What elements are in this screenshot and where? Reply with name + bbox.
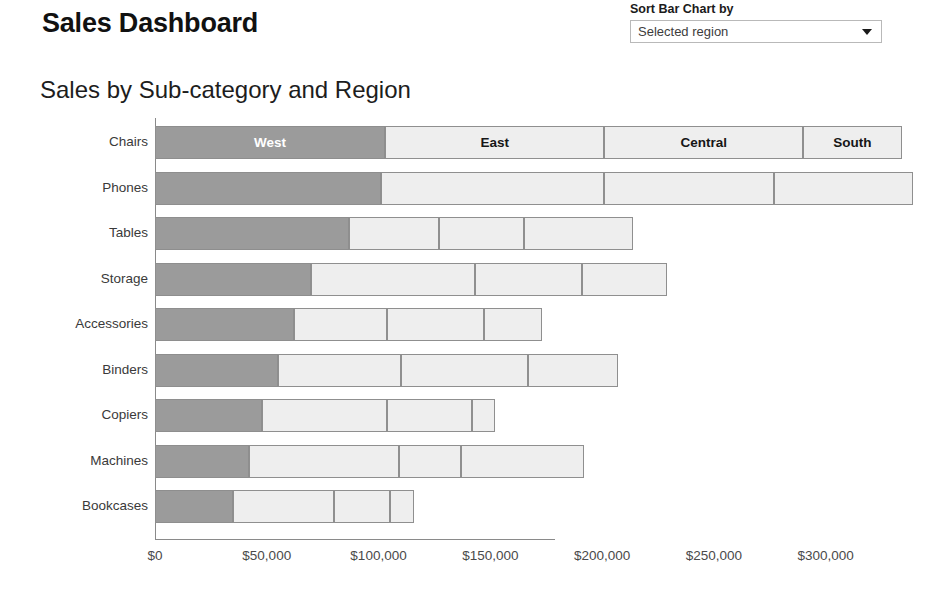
bar-row[interactable] <box>155 399 495 432</box>
bar-segment-south[interactable] <box>461 445 584 478</box>
bar-segment-west[interactable] <box>155 445 249 478</box>
y-axis-category-label: Chairs <box>18 134 148 149</box>
x-axis-tick-label: $200,000 <box>574 548 630 563</box>
x-axis-tick-label: $150,000 <box>462 548 518 563</box>
y-axis-category-label: Accessories <box>18 316 148 331</box>
bar-segment-label <box>525 218 633 249</box>
bar-segment-central[interactable] <box>604 172 774 205</box>
bar-segment-label <box>156 355 277 386</box>
bar-segment-west[interactable] <box>155 354 278 387</box>
bar-segment-west[interactable] <box>155 263 311 296</box>
bar-segment-label: West <box>156 127 384 158</box>
bar-segment-label <box>391 491 414 522</box>
sort-dropdown-value: Selected region <box>638 24 728 39</box>
bar-segment-east[interactable] <box>294 308 388 341</box>
bar-segment-central[interactable] <box>387 308 483 341</box>
bar-row[interactable] <box>155 445 584 478</box>
bar-segment-central[interactable] <box>439 217 524 250</box>
bar-segment-east[interactable] <box>349 217 438 250</box>
bar-segment-south[interactable] <box>528 354 617 387</box>
bar-segment-west[interactable] <box>155 172 381 205</box>
bar-segment-east[interactable] <box>311 263 474 296</box>
bar-segment-central[interactable] <box>475 263 582 296</box>
bar-segment-west[interactable] <box>155 490 233 523</box>
bar-segment-east[interactable] <box>381 172 605 205</box>
bar-segment-label <box>605 173 773 204</box>
bar-segment-south[interactable] <box>524 217 634 250</box>
bar-segment-east[interactable] <box>249 445 399 478</box>
bar-segment-central[interactable] <box>401 354 528 387</box>
page-title: Sales Dashboard <box>42 8 258 39</box>
y-axis-category-label: Storage <box>18 271 148 286</box>
bar-segment-label <box>529 355 616 386</box>
plot-area: WestEastCentralSouth <box>155 118 915 538</box>
bar-row[interactable]: WestEastCentralSouth <box>155 126 902 159</box>
x-axis-tick-label: $50,000 <box>242 548 291 563</box>
stacked-bar-chart: ChairsPhonesTablesStorageAccessoriesBind… <box>0 118 931 588</box>
bar-segment-label <box>462 446 583 477</box>
bar-segment-south[interactable] <box>390 490 415 523</box>
bar-segment-east[interactable]: East <box>385 126 604 159</box>
bar-segment-central[interactable] <box>387 399 472 432</box>
bar-segment-label <box>775 173 912 204</box>
bar-segment-south[interactable] <box>582 263 667 296</box>
x-axis-tick-label: $100,000 <box>350 548 406 563</box>
bar-segment-label <box>279 355 400 386</box>
bar-row[interactable] <box>155 354 618 387</box>
x-axis-tick-label: $0 <box>147 548 162 563</box>
bar-segment-south[interactable] <box>484 308 542 341</box>
bar-row[interactable] <box>155 217 633 250</box>
bar-row[interactable] <box>155 263 667 296</box>
x-axis-tick-label: $250,000 <box>686 548 742 563</box>
bar-segment-label <box>485 309 541 340</box>
bar-segment-label <box>263 400 386 431</box>
bar-segment-label <box>476 264 581 295</box>
bar-segment-label <box>388 309 482 340</box>
bar-segment-label <box>312 264 473 295</box>
bar-segment-label: East <box>386 127 603 158</box>
bar-segment-west[interactable]: West <box>155 126 385 159</box>
bar-segment-label <box>388 400 471 431</box>
bar-row[interactable] <box>155 172 913 205</box>
y-axis-labels: ChairsPhonesTablesStorageAccessoriesBind… <box>10 118 148 538</box>
bar-segment-west[interactable] <box>155 308 294 341</box>
bar-segment-label <box>156 446 248 477</box>
bar-segment-label <box>473 400 493 431</box>
bar-segment-label <box>156 491 232 522</box>
bar-segment-label <box>250 446 398 477</box>
bar-segment-central[interactable] <box>334 490 390 523</box>
chart-title: Sales by Sub-category and Region <box>40 76 411 104</box>
sort-control-label: Sort Bar Chart by <box>630 2 882 17</box>
bar-segment-label <box>382 173 604 204</box>
bar-segment-central[interactable] <box>399 445 462 478</box>
bar-row[interactable] <box>155 308 542 341</box>
bar-segment-label <box>295 309 387 340</box>
sort-dropdown[interactable]: Selected region <box>630 20 882 43</box>
bar-segment-label <box>350 218 437 249</box>
bar-segment-south[interactable]: South <box>803 126 901 159</box>
bar-segment-west[interactable] <box>155 217 349 250</box>
bar-segment-east[interactable] <box>262 399 387 432</box>
bar-segment-east[interactable] <box>233 490 334 523</box>
bar-segment-label <box>156 309 293 340</box>
bar-segment-south[interactable] <box>472 399 494 432</box>
y-axis-category-label: Machines <box>18 453 148 468</box>
bar-segment-central[interactable]: Central <box>604 126 803 159</box>
bar-segment-label <box>156 173 380 204</box>
sort-bar-chart-control: Sort Bar Chart by Selected region <box>630 2 882 43</box>
bar-segment-label <box>234 491 333 522</box>
y-axis-category-label: Tables <box>18 225 148 240</box>
bar-segment-label <box>335 491 389 522</box>
bar-segment-west[interactable] <box>155 399 262 432</box>
bar-segment-label <box>583 264 666 295</box>
bar-segment-south[interactable] <box>774 172 913 205</box>
bar-segment-east[interactable] <box>278 354 401 387</box>
x-axis-tick-label: $300,000 <box>797 548 853 563</box>
bar-segment-label: South <box>804 127 900 158</box>
page-header: Sales Dashboard Sort Bar Chart by Select… <box>0 0 931 70</box>
bar-segment-label <box>156 400 261 431</box>
bar-segment-label <box>400 446 461 477</box>
bar-row[interactable] <box>155 490 414 523</box>
chevron-down-icon[interactable] <box>862 29 872 35</box>
bar-segment-label: Central <box>605 127 802 158</box>
